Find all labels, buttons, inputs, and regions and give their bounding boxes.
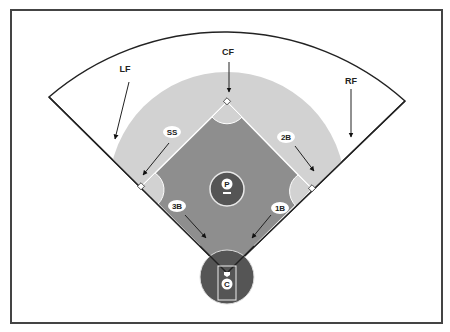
label-cf: CF (222, 47, 234, 57)
label-rf: RF (345, 76, 357, 86)
svg-text:3B: 3B (172, 202, 182, 211)
3b-badge: 3B (168, 200, 186, 212)
label-lf: LF (120, 64, 131, 74)
baseball-field-diagram: LF CF RF SS 2B 3B 1B P C (0, 0, 450, 332)
1b-badge: 1B (271, 202, 289, 214)
svg-text:1B: 1B (275, 204, 285, 213)
pitcher-badge: P (222, 179, 233, 190)
catcher-badge: C (222, 279, 233, 290)
2b-badge: 2B (277, 131, 295, 143)
pitchers-rubber (223, 192, 231, 194)
svg-text:SS: SS (167, 128, 178, 137)
svg-text:P: P (224, 180, 230, 189)
svg-text:2B: 2B (281, 133, 291, 142)
svg-text:C: C (224, 280, 230, 289)
ss-badge: SS (163, 126, 181, 138)
